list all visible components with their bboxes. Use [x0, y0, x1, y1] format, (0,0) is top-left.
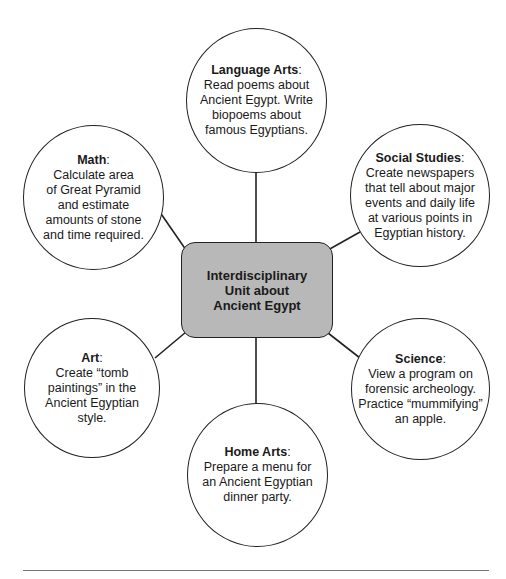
- node-title: Language Arts: [211, 63, 298, 77]
- node-line: at various points in: [365, 211, 475, 226]
- node-line: of Great Pyramid: [43, 183, 144, 198]
- node-art: Art: Create “tomb paintings” in the Anci…: [24, 318, 160, 458]
- node-line: Ancient Egypt. Write: [200, 93, 313, 108]
- node-line: Ancient Egyptian: [45, 396, 139, 411]
- node-line: biopoems about: [200, 108, 313, 123]
- node-line: forensic archeology.: [358, 382, 482, 397]
- node-line: events and daily life: [365, 196, 475, 211]
- node-line: Egyptian history.: [365, 226, 475, 241]
- node-title: Art: [81, 351, 99, 365]
- node-line: and estimate: [43, 198, 144, 213]
- node-line: an Ancient Egyptian: [202, 475, 313, 490]
- node-line: famous Egyptians.: [200, 123, 313, 138]
- center-topic-box: Interdisciplinary Unit about Ancient Egy…: [181, 242, 333, 338]
- node-line: and time required.: [43, 228, 144, 243]
- bottom-divider: [23, 570, 489, 571]
- node-line: Prepare a menu for: [202, 460, 313, 475]
- node-title: Home Arts: [224, 445, 287, 459]
- connector-art: [155, 332, 186, 358]
- node-line: Calculate area: [43, 168, 144, 183]
- connector-social-studies: [328, 232, 360, 250]
- node-language-arts: Language Arts: Read poems about Ancient …: [186, 28, 327, 173]
- node-math: Math: Calculate area of Great Pyramid an…: [23, 125, 164, 270]
- node-title: Social Studies: [376, 151, 461, 165]
- node-line: dinner party.: [202, 490, 313, 505]
- node-line: style.: [45, 411, 139, 426]
- node-home-arts: Home Arts: Prepare a menu for an Ancient…: [187, 403, 328, 547]
- node-line: that tell about major: [365, 181, 475, 196]
- node-line: Practice “mummifying”: [358, 397, 482, 412]
- node-line: Create newspapers: [365, 166, 475, 181]
- node-title: Math: [77, 153, 106, 167]
- node-social-studies: Social Studies: Create newspapers that t…: [350, 124, 490, 267]
- node-science: Science: View a program on forensic arch…: [351, 318, 490, 460]
- node-line: amounts of stone: [43, 213, 144, 228]
- center-line: Interdisciplinary: [207, 268, 307, 283]
- center-line: Ancient Egypt: [207, 298, 307, 313]
- node-line: Read poems about: [200, 78, 313, 93]
- center-line: Unit about: [207, 283, 307, 298]
- node-line: paintings” in the: [45, 381, 139, 396]
- node-line: View a program on: [358, 367, 482, 382]
- node-line: an apple.: [358, 412, 482, 427]
- node-line: Create “tomb: [45, 366, 139, 381]
- node-title: Science: [395, 352, 442, 366]
